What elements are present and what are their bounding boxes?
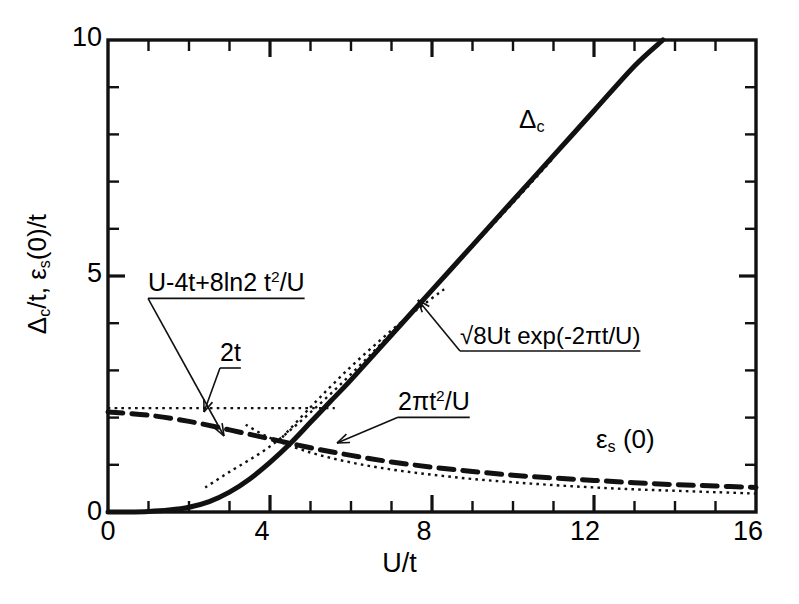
annotation-2t: 2t (220, 338, 241, 367)
y-tick-label-10: 10 (42, 22, 102, 53)
x-tick-label-8: 8 (404, 516, 444, 547)
figure-container: 0 4 8 12 16 0 5 10 U/t Δc/t, εs(0)/t U-4… (0, 0, 799, 604)
x-axis-title: U/t (0, 548, 799, 579)
y-tick-label-0: 0 (62, 496, 102, 527)
x-tick-label-16: 16 (726, 516, 770, 547)
x-tick-label-4: 4 (242, 516, 282, 547)
y-tick-label-5: 5 (62, 258, 102, 289)
chart-canvas (0, 0, 799, 604)
y-axis-title: Δc/t, εs(0)/t (22, 144, 54, 404)
annotation-2pi-t2-over-u: 2πt2/U (398, 387, 470, 416)
annotation-sqrt-8ut-exp: √8Ut exp(-2πt/U) (460, 322, 640, 350)
y-axis-eps-sub: s (35, 260, 53, 268)
curve-label-epsilon-s: εs (0) (596, 424, 655, 456)
y-axis-delta-sub: c (35, 309, 53, 317)
x-tick-label-12: 12 (563, 516, 607, 547)
series-path-1 (108, 412, 756, 488)
curve-label-delta-c: Δc (519, 104, 544, 136)
y-axis-mid: /t, (22, 280, 52, 309)
y-axis-eps: ε (22, 268, 52, 280)
y-axis-delta: Δ (22, 317, 52, 334)
annotation-u-4t-8ln2: U-4t+8ln2 t2/U (148, 268, 305, 297)
y-axis-tail: (0)/t (22, 214, 52, 260)
annotation-leaders (148, 298, 640, 443)
